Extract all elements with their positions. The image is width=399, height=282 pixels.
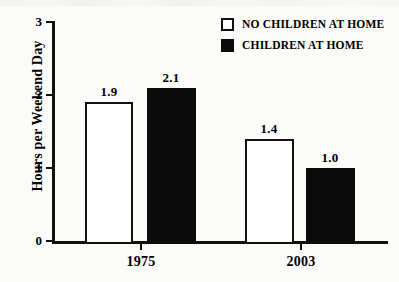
legend-item-no-children: NO CHILDREN AT HOME	[221, 18, 384, 31]
legend-label-children: CHILDREN AT HOME	[242, 39, 364, 52]
y-tick-mark-2	[46, 94, 52, 96]
x-category-label-1975: 1975	[101, 254, 181, 270]
bar-chart-figure: Hours per Weekend Day 3 2 1 0 1.9 2.1 1.…	[0, 0, 399, 282]
y-axis-title: Hours per Weekend Day	[30, 16, 46, 216]
y-tick-label-0: 0	[20, 234, 42, 247]
x-category-label-2003: 2003	[261, 254, 341, 270]
legend-swatch-filled-icon	[221, 39, 234, 52]
cropped-title-remnant	[0, 0, 399, 6]
y-axis-line	[52, 21, 55, 243]
y-tick-label-3: 3	[20, 15, 42, 28]
y-tick-mark-0	[46, 240, 52, 242]
y-tick-label-2: 2	[20, 88, 42, 101]
y-tick-mark-1	[46, 167, 52, 169]
legend-label-no-children: NO CHILDREN AT HOME	[242, 18, 384, 31]
y-tick-label-1: 1	[20, 161, 42, 174]
x-tick-mark-1975	[140, 243, 142, 250]
bar-1975-children	[147, 88, 196, 244]
x-tick-mark-2003	[300, 243, 302, 250]
bar-value-2003-children: 1.0	[300, 150, 360, 166]
bar-value-1975-children: 2.1	[141, 70, 201, 86]
bar-2003-no-children	[245, 139, 294, 244]
bar-2003-children	[306, 168, 355, 244]
bar-value-2003-no-children: 1.4	[239, 121, 299, 137]
bar-1975-no-children	[85, 102, 133, 244]
y-tick-mark-3	[46, 21, 52, 23]
legend-swatch-open-icon	[221, 18, 234, 31]
bar-value-1975-no-children: 1.9	[79, 84, 139, 100]
legend-item-children: CHILDREN AT HOME	[221, 39, 364, 52]
